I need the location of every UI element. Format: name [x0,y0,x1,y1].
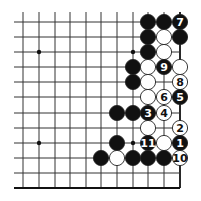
move-number-label: 3 [144,107,152,120]
black-stone [109,135,124,150]
white-stone-icon [156,29,171,44]
black-stone-icon [140,14,155,29]
black-stone [140,150,155,165]
white-stone [156,44,171,59]
black-stone-move-1: 1 [172,135,187,150]
black-stone [125,150,140,165]
move-number-label: 1 [176,137,184,150]
white-stone-icon [140,59,155,74]
move-number-label: 2 [176,122,184,135]
black-stone-move-7: 7 [172,14,187,29]
white-stone-move-10: 10 [172,150,188,165]
white-stone-move-8: 8 [172,74,187,89]
black-stone-icon [172,29,187,44]
white-stone-icon [109,150,124,165]
black-stone-move-3: 3 [140,105,155,120]
black-stone [125,59,140,74]
star-point-icon [131,50,135,54]
black-stone [125,105,140,120]
white-stone-move-2: 2 [172,120,187,135]
black-stone [109,105,124,120]
black-stone-icon [109,135,124,150]
star-point-icon [131,141,135,145]
white-stone [140,59,155,74]
white-stone [172,59,187,74]
star-point-icon [37,50,41,54]
move-number-label: 7 [176,16,184,29]
white-stone-icon [140,89,155,104]
black-stone-icon [140,29,155,44]
white-stone-move-6: 6 [156,89,171,104]
move-number-label: 4 [160,107,168,120]
white-stone [140,89,155,104]
black-stone-icon [125,59,140,74]
white-stone [140,120,155,135]
black-stone-icon [156,14,171,29]
black-stone [140,44,155,59]
white-stone [140,74,155,89]
go-board-diagram: 7986534211110 [0,0,201,201]
move-number-label: 6 [160,91,168,104]
black-stone [156,14,171,29]
black-stone-icon [93,150,108,165]
white-stone-icon [172,59,187,74]
black-stone [172,29,187,44]
black-stone [125,74,140,89]
black-stone [140,14,155,29]
black-stone-icon [125,150,140,165]
white-stone [109,150,124,165]
black-stone-icon [140,44,155,59]
move-number-label: 11 [140,137,155,150]
white-stone-icon [156,44,171,59]
black-stone [156,150,171,165]
white-stone-move-4: 4 [156,105,171,120]
move-number-label: 5 [176,91,184,104]
black-stone-icon [156,150,171,165]
move-number-label: 10 [172,152,188,165]
white-stone [156,29,171,44]
black-stone-move-11: 11 [140,135,155,150]
black-stone [140,29,155,44]
black-stone-icon [109,105,124,120]
black-stone-move-9: 9 [156,59,171,74]
black-stone-icon [125,105,140,120]
black-stone-icon [125,74,140,89]
move-number-label: 8 [176,76,184,89]
white-stone-icon [156,135,171,150]
white-stone-icon [140,120,155,135]
black-stone-icon [140,150,155,165]
white-stone [156,135,171,150]
black-stone-move-5: 5 [172,89,187,104]
white-stone-icon [140,74,155,89]
star-point-icon [37,141,41,145]
black-stone [93,150,108,165]
move-number-label: 9 [160,61,168,74]
